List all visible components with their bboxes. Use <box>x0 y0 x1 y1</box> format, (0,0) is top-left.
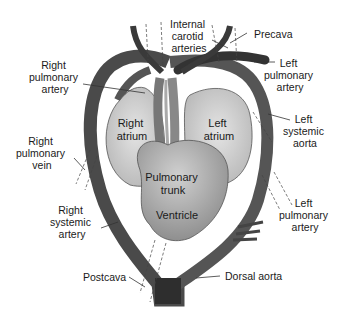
label-left-pulmonary-artery-bottom: Left pulmonary artery <box>279 197 331 233</box>
dorsal-aorta-vessel <box>155 278 181 304</box>
label-left-atrium: Left atrium <box>204 117 235 142</box>
label-precava: Precava <box>254 28 293 40</box>
label-left-systemic-aorta: Left systemic aorta <box>283 113 327 149</box>
label-right-atrium: Right atrium <box>117 117 148 142</box>
label-right-systemic-artery: Right systemic artery <box>50 204 94 240</box>
label-ventricle: Ventricle <box>156 209 198 221</box>
label-internal-carotid-arteries: Internal carotid arteries <box>170 18 208 54</box>
label-postcava: Postcava <box>83 271 126 283</box>
label-right-pulmonary-artery: Right pulmonary artery <box>29 59 81 95</box>
heart-diagram: Right atrium Left atrium Pulmonary trunk… <box>0 0 342 320</box>
label-right-pulmonary-vein: Right pulmonary vein <box>16 135 68 171</box>
label-left-pulmonary-artery-top: Left pulmonary artery <box>264 57 316 93</box>
label-dorsal-aorta: Dorsal aorta <box>225 270 282 282</box>
